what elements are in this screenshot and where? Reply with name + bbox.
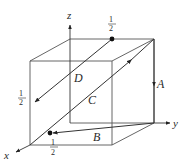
point-top-half: [110, 37, 115, 42]
fraction-bottom: 1 2: [50, 138, 58, 157]
x-axis-label: x: [3, 149, 9, 161]
fraction-top: 1 2: [108, 15, 116, 33]
fraction-bottom-num: 1: [51, 138, 55, 147]
cube-vector-diagram: z y x A B C D 1 2 1 2 1 2: [0, 0, 193, 163]
vector-c-label: C: [88, 93, 97, 107]
y-axis-label: y: [172, 117, 178, 129]
fraction-left: 1 2: [18, 89, 26, 107]
z-axis-label: z: [66, 9, 72, 21]
vector-b-label: B: [93, 130, 101, 144]
point-bottom-half: [48, 131, 53, 136]
fraction-top-den: 2: [109, 24, 113, 33]
vector-d-label: D: [73, 71, 83, 85]
x-axis: [16, 145, 30, 152]
vectors: [30, 39, 154, 145]
fraction-left-num: 1: [19, 89, 23, 98]
fraction-bottom-den: 2: [51, 148, 55, 157]
fraction-left-den: 2: [19, 98, 23, 107]
vector-b: [53, 123, 154, 133]
cube-edge-top-left: [30, 39, 70, 61]
fraction-top-num: 1: [109, 15, 113, 24]
vector-a-label: A: [156, 77, 165, 91]
